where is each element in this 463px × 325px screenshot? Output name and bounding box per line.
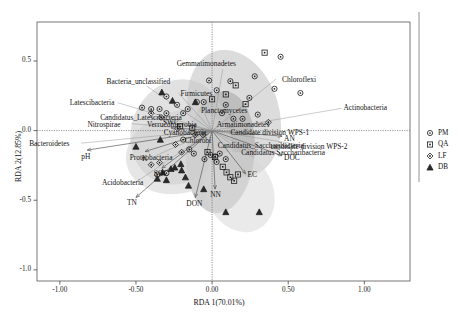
data-point-qa-core (233, 180, 235, 182)
data-point-lf-core (181, 151, 183, 153)
env-label-6: NN (210, 190, 221, 199)
data-point-pm-core (280, 56, 282, 58)
env-label-4: TN (127, 198, 137, 207)
taxon-label-18: Proteobacteria (130, 153, 173, 162)
legend-marker-lf-core (429, 155, 431, 157)
taxon-label-7: Planctomycetes (201, 106, 247, 115)
data-point-qa-core (207, 151, 209, 153)
data-point-pm-core (249, 97, 251, 99)
data-point-pm-core (182, 112, 184, 114)
data-point-pm-core (141, 107, 143, 109)
y-tick-label-2: -0.5 (20, 196, 31, 204)
y-tick-label-1: 0.0 (22, 126, 31, 134)
taxon-label-13: Actinobacteria (343, 103, 387, 112)
x-tick-label-1: -0.50 (128, 286, 143, 294)
data-point-pm-core (150, 108, 152, 110)
y-tick-label-0: 0.5 (22, 56, 31, 64)
data-point-pm-core (216, 161, 218, 163)
rda-ordination-figure: GemmatimonadetesChloroflexiBacteria_uncl… (0, 0, 463, 325)
data-point-pm-core (274, 88, 276, 90)
legend-label-qa: QA (438, 140, 448, 148)
data-point-lf-core (150, 164, 152, 166)
data-point-qa-core (264, 52, 266, 54)
env-label-5: DON (186, 199, 202, 208)
data-point-qa-core (226, 172, 228, 174)
data-point-pm-core (216, 89, 218, 91)
env-label-2: SWC (163, 118, 179, 127)
legend-marker-qa-core (429, 144, 431, 146)
data-point-pm-core (225, 158, 227, 160)
taxon-label-1: Chloroflexi (282, 75, 316, 84)
data-point-lf-core (214, 155, 216, 157)
x-tick-label-2: 0.00 (206, 286, 219, 294)
taxon-label-11: Chlorobi (185, 136, 211, 145)
taxon-label-3: Firmicutes (181, 89, 213, 98)
data-point-pm-core (254, 75, 256, 77)
taxon-label-0: Gemmatimonadetes (177, 59, 236, 68)
data-point-pm-core (193, 153, 195, 155)
data-point-pm-core (219, 153, 221, 155)
data-point-pm-core (187, 108, 189, 110)
taxon-label-12: Candidate division WPS-1 (230, 128, 309, 137)
data-point-pm-core (204, 158, 206, 160)
data-point-qa-core (230, 176, 232, 178)
env-label-0: pH (81, 152, 90, 161)
taxon-label-2: Bacteria_unclassified (107, 77, 171, 86)
data-point-qa-core (211, 98, 213, 100)
legend-label-db: DB (438, 163, 448, 171)
data-point-pm-core (203, 101, 205, 103)
data-point-qa-core (222, 166, 224, 168)
y-axis-title: RDA 2(12.85%) (14, 130, 23, 181)
taxon-label-6: Nitrospirae (87, 120, 120, 129)
legend-label-lf: LF (438, 152, 446, 160)
x-tick-label-0: -1.00 (52, 286, 67, 294)
legend-marker-pm-core (429, 132, 431, 134)
env-label-1: K (142, 154, 147, 163)
data-point-pm-core (166, 96, 168, 98)
data-point-qa-core (237, 174, 239, 176)
x-tick-label-4: 1.00 (358, 286, 371, 294)
env-label-3: SOC (154, 169, 168, 178)
y-tick-label-3: -1.0 (20, 265, 31, 273)
plot-canvas (0, 0, 463, 325)
env-label-9: AN (284, 134, 295, 143)
data-point-pm-core (182, 139, 184, 141)
env-label-7: EC (248, 170, 257, 179)
data-point-qa-core (245, 103, 247, 105)
data-point-pm-core (257, 114, 259, 116)
data-point-lf-core (175, 144, 177, 146)
data-point-pm-core (176, 104, 178, 106)
data-point-qa-core (235, 85, 237, 87)
taxon-label-19: Acidobacteria (102, 178, 143, 187)
legend-label-pm: PM (438, 129, 448, 137)
data-point-pm-core (300, 92, 302, 94)
data-point-pm-core (230, 80, 232, 82)
data-point-pm-core (188, 149, 190, 151)
legend-marker-db (427, 164, 433, 170)
data-point-pm-core (208, 80, 210, 82)
taxon-label-17: Bacteroidetes (29, 139, 69, 148)
data-point-pm-core (159, 108, 161, 110)
data-point-lf-core (159, 162, 161, 164)
env-label-8: DOC (284, 153, 300, 162)
x-axis-title: RDA 1(70.01%) (194, 298, 245, 307)
x-tick-label-3: 0.50 (282, 286, 295, 294)
taxon-label-4: Latescibacteria (70, 98, 115, 107)
data-point-qa-core (225, 94, 227, 96)
